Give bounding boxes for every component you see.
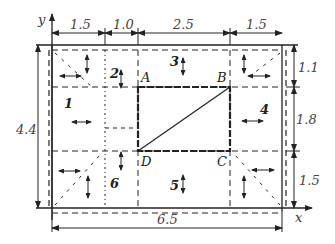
dim-top-1: 1.5 (70, 17, 91, 32)
coordinate-axes: y x (36, 12, 312, 225)
point-A: A (140, 70, 150, 85)
point-C: C (217, 154, 227, 169)
abcd-rectangle: A B C D (138, 70, 230, 169)
x-axis-label: x (295, 210, 303, 225)
dim-right-3: 1.5 (299, 173, 320, 188)
diagonal-DB (138, 87, 230, 151)
region-4: 4 (260, 102, 269, 117)
region-1: 1 (64, 96, 73, 111)
region-5: 5 (170, 178, 179, 193)
direction-arrows (59, 55, 274, 198)
dim-top-3: 2.5 (172, 17, 194, 32)
point-D: D (140, 154, 152, 169)
region-labels: 1 2 3 4 5 6 (64, 54, 269, 193)
dim-top-4: 1.5 (246, 17, 267, 32)
region-3: 3 (170, 54, 179, 69)
dim-top-2: 1.0 (113, 17, 134, 32)
y-axis-label: y (37, 12, 46, 27)
dim-right-1: 1.1 (298, 60, 319, 75)
dim-bottom: 6.5 (157, 212, 178, 227)
dim-left: 4.4 (15, 122, 37, 137)
dashed-frame (49, 50, 286, 213)
dim-right-2: 1.8 (296, 112, 317, 127)
region-2: 2 (109, 66, 119, 81)
grid-lines (52, 50, 282, 208)
point-B: B (216, 70, 227, 85)
structural-diagram: y x A B C D 1 2 3 (0, 0, 335, 244)
region-6: 6 (110, 176, 119, 191)
